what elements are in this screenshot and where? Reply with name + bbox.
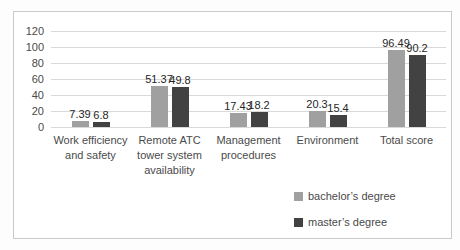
legend-swatch-bachelors-icon bbox=[294, 192, 303, 201]
bar-masters-work-efficiency: 6.8 bbox=[93, 122, 110, 127]
legend-label-masters: master’s degree bbox=[308, 216, 387, 228]
bar-value-label: 7.39 bbox=[69, 108, 90, 120]
gridline bbox=[51, 127, 446, 128]
bar-group-remote-atc: 51.37 49.8 bbox=[130, 31, 209, 127]
bar-value-label: 90.2 bbox=[406, 42, 427, 54]
plot-area: 7.39 6.8 51.37 49.8 17.43 18.2 bbox=[51, 31, 446, 128]
bar-group-work-efficiency: 7.39 6.8 bbox=[51, 31, 130, 127]
y-tick-label: 100 bbox=[14, 41, 44, 53]
category-label-management: Management procedures bbox=[209, 133, 288, 178]
y-tick-label: 0 bbox=[14, 121, 44, 133]
legend: bachelor’s degree master’s degree bbox=[294, 190, 396, 228]
bar-groups: 7.39 6.8 51.37 49.8 17.43 18.2 bbox=[51, 31, 446, 127]
category-label-work-efficiency: Work efficiency and safety bbox=[51, 133, 130, 178]
chart-frame: 120 100 80 60 40 20 0 7.39 6.8 bbox=[13, 11, 452, 239]
bar-bachelors-remote-atc: 51.37 bbox=[151, 86, 168, 127]
bar-group-management: 17.43 18.2 bbox=[209, 31, 288, 127]
y-tick-label: 120 bbox=[14, 25, 44, 37]
bar-value-label: 6.8 bbox=[93, 109, 108, 121]
y-tick-label: 40 bbox=[14, 89, 44, 101]
bar-value-label: 49.8 bbox=[169, 74, 190, 86]
bar-bachelors-environment: 20.3 bbox=[309, 111, 326, 127]
x-axis-category-labels: Work efficiency and safety Remote ATC to… bbox=[51, 133, 446, 178]
bar-value-label: 20.3 bbox=[306, 98, 327, 110]
bar-value-label: 18.2 bbox=[248, 99, 269, 111]
bar-bachelors-total-score: 96.49 bbox=[388, 50, 405, 127]
legend-label-bachelors: bachelor’s degree bbox=[308, 190, 396, 202]
bar-masters-management: 18.2 bbox=[251, 112, 268, 127]
bar-masters-total-score: 90.2 bbox=[409, 55, 426, 127]
bar-bachelors-management: 17.43 bbox=[230, 113, 247, 127]
category-label-environment: Environment bbox=[288, 133, 367, 178]
bar-value-label: 15.4 bbox=[327, 102, 348, 114]
legend-item-bachelors: bachelor’s degree bbox=[294, 190, 396, 202]
bar-masters-remote-atc: 49.8 bbox=[172, 87, 189, 127]
y-axis-tick-labels: 120 100 80 60 40 20 0 bbox=[14, 25, 44, 133]
legend-item-masters: master’s degree bbox=[294, 216, 396, 228]
bar-group-environment: 20.3 15.4 bbox=[288, 31, 367, 127]
bar-group-total-score: 96.49 90.2 bbox=[367, 31, 446, 127]
y-tick-label: 20 bbox=[14, 105, 44, 117]
legend-swatch-masters-icon bbox=[294, 218, 303, 227]
category-label-total-score: Total score bbox=[367, 133, 446, 178]
bar-masters-environment: 15.4 bbox=[330, 115, 347, 127]
y-tick-label: 80 bbox=[14, 57, 44, 69]
y-tick-label: 60 bbox=[14, 73, 44, 85]
bar-bachelors-work-efficiency: 7.39 bbox=[72, 121, 89, 127]
category-label-remote-atc: Remote ATC tower system availability bbox=[130, 133, 209, 178]
